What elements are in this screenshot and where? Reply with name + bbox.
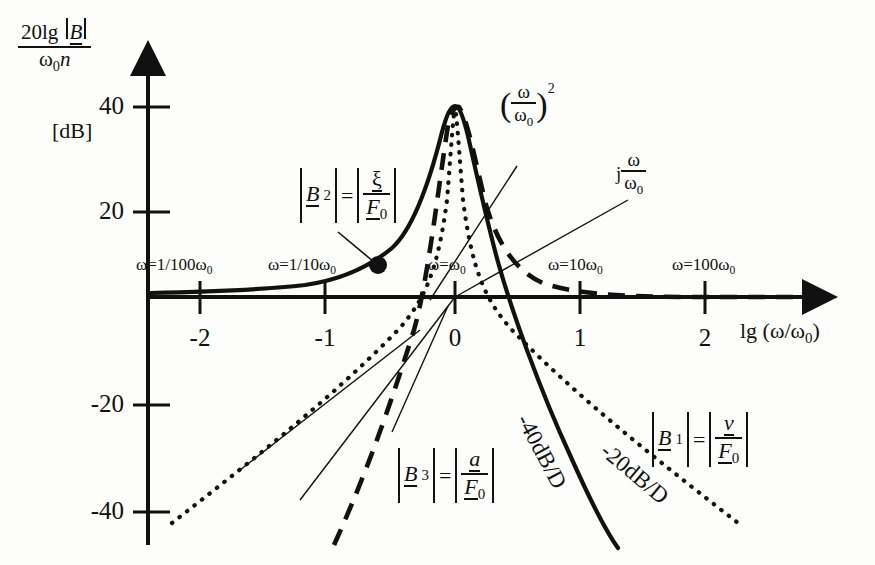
x-axis-title-sub: 0 — [805, 330, 812, 346]
y-axis-title-omega: ω — [39, 47, 53, 71]
annotation-omega-0: ω=ω0 — [428, 256, 466, 277]
annotation-omega-100-sub: 0 — [729, 264, 735, 277]
annotation-j-omega-den: ω — [624, 172, 637, 193]
x-axis-title-close: ) — [813, 318, 820, 343]
y-axis-title-omega-sub: 0 — [53, 58, 60, 74]
leader-marker-dot — [338, 232, 374, 262]
equation-b3-numerator: a — [469, 449, 480, 472]
annotation-omega-100-text: ω=100ω — [672, 255, 729, 274]
annotation-omega-squared-open-paren: ( — [500, 90, 511, 121]
annotation-omega-1-10: ω=1/10ω0 — [268, 256, 336, 277]
x-tick-label-m2: -2 — [170, 325, 230, 350]
annotation-omega-10: ω=10ω0 — [548, 256, 603, 277]
x-tick-label-1: 1 — [550, 325, 610, 350]
y-tick-label-20: 20 — [72, 198, 124, 223]
equation-b1-denominator-sub: 0 — [732, 451, 739, 467]
y-axis-title-n: n — [60, 47, 71, 71]
equation-b1-sub: 1 — [675, 432, 682, 447]
annotation-omega-10-text: ω=10ω — [548, 255, 597, 274]
annotation-j-omega: j ω ω0 — [616, 150, 646, 197]
y-tick-label-m40: -40 — [60, 498, 124, 523]
equation-b3-denominator: F — [464, 477, 477, 500]
y-axis-title: 20lg B ω0n — [18, 18, 91, 73]
y-tick-label-m20: -20 — [60, 391, 124, 416]
x-tick-label-0: 0 — [425, 325, 485, 350]
annotation-omega-1-100-sub: 0 — [207, 264, 213, 277]
equation-b1: B1 = v F0 — [652, 412, 748, 467]
equation-b2: B2 = ξ F0 — [300, 168, 396, 223]
annotation-omega-1-10-text: ω=1/10ω — [268, 255, 330, 274]
annotation-omega-100: ω=100ω0 — [672, 256, 735, 277]
equation-b3-equals: = — [439, 465, 451, 487]
annotation-omega-0-text: ω=ω — [428, 255, 460, 274]
equation-b2-sub: 2 — [323, 188, 330, 203]
equation-b1-B: B — [658, 428, 671, 451]
annotation-omega-1-100: ω=1/100ω0 — [136, 256, 212, 277]
equation-b2-equals: = — [341, 185, 353, 207]
annotation-omega-squared-close-paren: ) — [536, 90, 547, 121]
equation-b3: B3 = a F0 — [398, 448, 494, 503]
operating-point-marker — [369, 256, 387, 274]
annotation-omega-squared-den: ω — [514, 104, 527, 125]
equation-b1-numerator: v — [724, 413, 734, 436]
annotation-omega-squared: ( ω ω0 ) 2 — [500, 82, 555, 129]
annotation-omega-squared-exponent: 2 — [548, 82, 555, 96]
equation-b2-B: B — [306, 184, 319, 207]
x-axis-title-omega0: ω — [791, 318, 805, 343]
equation-b3-denominator-sub: 0 — [478, 487, 485, 503]
annotation-omega-1-10-sub: 0 — [330, 264, 336, 277]
annotation-omega-0-sub: 0 — [460, 264, 466, 277]
x-axis-title-omega: ω — [770, 318, 784, 343]
equation-b3-B: B — [404, 464, 417, 487]
equation-b2-numerator: ξ — [372, 169, 382, 192]
y-axis-title-B: B — [70, 23, 83, 45]
equation-b1-equals: = — [693, 429, 705, 451]
equation-b1-denominator: F — [718, 441, 731, 464]
y-axis-title-num-text: 20lg — [21, 20, 58, 44]
y-axis-unit: [dB] — [52, 120, 92, 142]
equation-b2-denominator: F — [366, 197, 379, 220]
equation-b2-denominator-sub: 0 — [380, 207, 387, 223]
x-tick-label-m1: -1 — [295, 325, 355, 350]
annotation-omega-1-100-text: ω=1/100ω — [136, 255, 207, 274]
x-tick-label-2: 2 — [675, 325, 735, 350]
annotation-j-omega-den-sub: 0 — [637, 182, 643, 197]
annotation-omega-10-sub: 0 — [597, 264, 603, 277]
bode-plot-figure: 20lg B ω0n [dB] 40 20 -20 -40 -2 -1 0 1 … — [0, 0, 875, 565]
y-tick-label-40: 40 — [72, 93, 124, 118]
equation-b3-sub: 3 — [421, 468, 428, 483]
annotation-omega-squared-den-sub: 0 — [527, 114, 533, 129]
x-axis-title: lg (ω/ω0) — [740, 320, 820, 346]
annotation-omega-squared-num: ω — [518, 81, 531, 102]
annotation-j-omega-num: ω — [628, 149, 641, 170]
x-axis-title-lg: lg ( — [740, 318, 770, 343]
